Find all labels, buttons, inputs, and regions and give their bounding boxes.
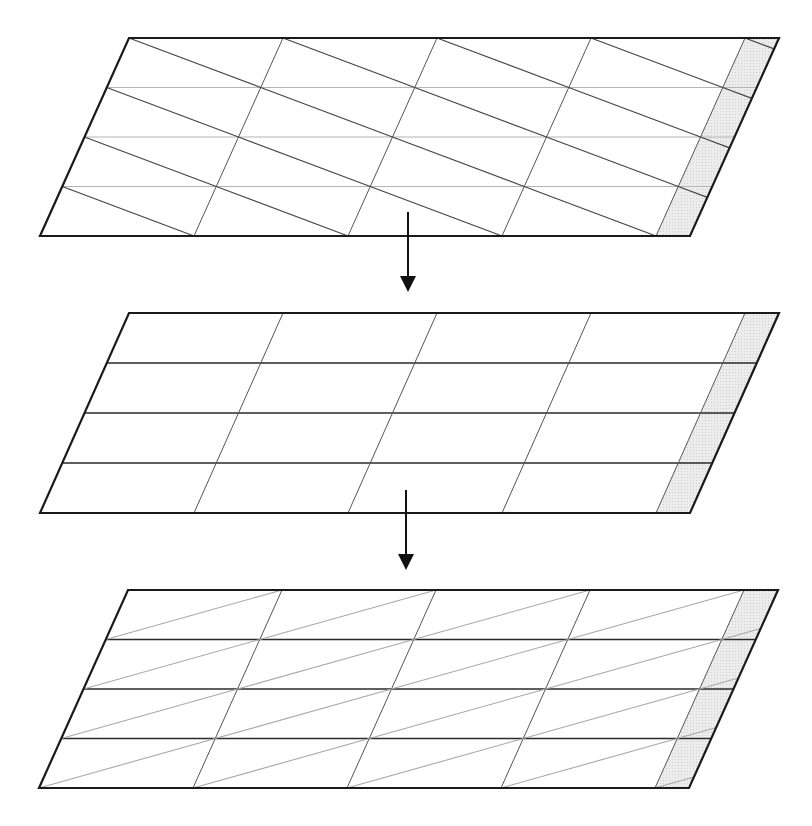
cell-diagonal: [393, 137, 525, 187]
cell-diagonal: [392, 640, 568, 690]
cell-diagonal: [84, 640, 260, 690]
down-arrow-icon: [398, 490, 414, 570]
cell-diagonal: [347, 739, 523, 789]
cell-diagonal: [415, 88, 547, 138]
cell-diagonal: [238, 640, 414, 690]
cell-diagonal: [215, 689, 391, 739]
cell-diagonal: [524, 187, 656, 237]
cell-diagonal: [85, 137, 217, 187]
cell-diagonal: [283, 38, 415, 88]
cell-diagonal: [62, 187, 194, 237]
cell-diagonal: [61, 689, 237, 739]
cell-diagonal: [369, 689, 545, 739]
cell-diagonal: [591, 38, 723, 88]
cell-diagonal: [129, 38, 261, 88]
cell-diagonal: [523, 689, 699, 739]
cell-diagonal: [547, 137, 679, 187]
cell-diagonal: [414, 590, 590, 640]
middle-mesh-panel: [40, 313, 779, 513]
bottom-mesh-panel: [39, 590, 778, 788]
cell-diagonal: [260, 590, 436, 640]
cell-diagonal: [216, 187, 348, 237]
cell-diagonal: [568, 590, 744, 640]
cell-diagonal: [193, 739, 369, 789]
cell-diagonal: [501, 739, 677, 789]
top-mesh-panel: [40, 38, 779, 236]
cell-diagonal: [39, 739, 215, 789]
mesh-transformation-diagram: [0, 0, 812, 826]
cell-diagonal: [546, 640, 722, 690]
cell-diagonal: [569, 88, 701, 138]
cell-diagonal: [437, 38, 569, 88]
cell-diagonal: [261, 88, 393, 138]
down-arrow-icon: [400, 212, 416, 292]
cell-diagonal: [107, 88, 239, 138]
cell-diagonal: [239, 137, 371, 187]
cell-diagonal: [106, 590, 282, 640]
cell-diagonal: [370, 187, 502, 237]
